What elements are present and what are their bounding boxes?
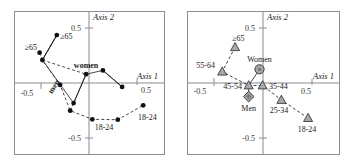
left-women-path-close — [42, 35, 56, 60]
right-group-label-women: Women — [247, 55, 272, 64]
left-xticklabel-pos05: 0.5 — [141, 86, 151, 95]
right-label-65plus: ≥65 — [232, 34, 244, 43]
left-point-women-45-54 — [71, 101, 76, 106]
right-axis2-label: Axis 2 — [266, 12, 289, 22]
right-label-35-44: 35-44 — [269, 82, 288, 91]
left-point-women-18-24 — [120, 85, 125, 90]
left-yticklabel-neg05: -0.5 — [68, 134, 81, 143]
left-point-men-45-54 — [68, 108, 73, 113]
right-label-45-54: 45-54 — [223, 82, 242, 91]
right-marker-55-64 — [218, 67, 227, 75]
right-biplot-svg: Axis 2 Axis 1 -0.5 0.5 0.5 -0.5 — [178, 0, 355, 168]
left-yticklabel-pos05: 0.5 — [71, 24, 81, 33]
right-marker-women-center — [258, 67, 262, 71]
left-women-path-seg4 — [74, 74, 87, 103]
left-biplot-panel: Axis 2 Axis 1 -0.5 0.5 0.5 -0.5 — [0, 0, 178, 168]
left-axis2-label: Axis 2 — [92, 12, 115, 22]
right-xticklabel-neg05: -0.5 — [194, 87, 207, 96]
right-marker-65plus — [231, 42, 240, 50]
left-label-65plus-men: ≥65 — [25, 43, 37, 52]
right-label-25-34: 25-34 — [270, 106, 289, 115]
right-yticklabel-pos05: 0.5 — [245, 24, 255, 33]
left-point-men-35-44 — [90, 117, 95, 122]
left-point-men-65plus — [37, 50, 42, 55]
left-point-women-35-44 — [84, 72, 89, 77]
figure-root: Axis 2 Axis 1 -0.5 0.5 0.5 -0.5 — [0, 0, 355, 168]
right-marker-35-44 — [258, 81, 267, 89]
right-group-label-men: Men — [241, 104, 256, 113]
left-biplot-svg: Axis 2 Axis 1 -0.5 0.5 0.5 -0.5 — [0, 0, 178, 168]
left-point-women-65plus — [54, 33, 59, 38]
left-point-women-25-34 — [101, 68, 106, 73]
right-marker-18-24 — [304, 113, 313, 121]
right-label-55-64: 55-64 — [196, 61, 215, 70]
left-axis1-label: Axis 1 — [136, 71, 158, 81]
left-point-men-25-34 — [115, 117, 120, 122]
left-group-label-women: women — [74, 61, 99, 70]
right-axis1-label: Axis 1 — [312, 71, 334, 81]
left-label-65plus-women: ≥65 — [60, 32, 72, 41]
left-women-path-seg6 — [103, 70, 122, 87]
right-xticklabel-pos05: 0.5 — [301, 87, 311, 96]
right-biplot-panel: Axis 2 Axis 1 -0.5 0.5 0.5 -0.5 — [178, 0, 355, 168]
left-label-18-24-women: 18-24 — [138, 113, 157, 122]
right-marker-45-54 — [244, 81, 253, 89]
left-label-18-24-men: 18-24 — [95, 123, 114, 132]
right-marker-25-34 — [277, 95, 286, 103]
right-yticklabel-neg05: -0.5 — [242, 134, 255, 143]
left-point-men-18-24 — [141, 103, 146, 108]
right-label-18-24: 18-24 — [298, 125, 317, 134]
left-xticklabel-neg05: -0.5 — [21, 89, 34, 98]
left-point-women-55-64 — [40, 58, 45, 63]
